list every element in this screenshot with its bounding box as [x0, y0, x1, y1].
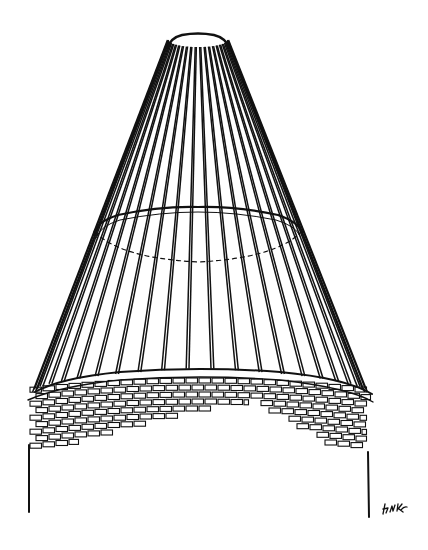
brick	[56, 441, 68, 446]
brick	[205, 385, 217, 390]
brick	[140, 386, 152, 391]
brick	[121, 394, 133, 399]
brick	[147, 393, 159, 398]
brick	[335, 392, 347, 397]
brick	[355, 401, 367, 406]
brick	[270, 387, 282, 392]
brick	[134, 421, 146, 426]
brick	[325, 440, 337, 445]
brick	[114, 387, 126, 392]
brick	[251, 379, 263, 384]
brick	[244, 386, 256, 391]
brick	[75, 404, 87, 409]
brick	[101, 430, 113, 435]
rib-line	[226, 43, 351, 384]
brick	[160, 392, 172, 397]
brick	[62, 419, 74, 424]
brick	[238, 379, 250, 384]
brick	[127, 387, 139, 392]
rib-line	[52, 43, 172, 384]
brick	[160, 406, 172, 411]
brick	[69, 425, 81, 430]
brick	[95, 423, 107, 428]
brick	[322, 391, 334, 396]
brick	[160, 378, 172, 383]
brick	[289, 416, 301, 421]
brick	[297, 424, 309, 429]
cone-framework-illustration	[0, 0, 428, 550]
brick	[295, 410, 307, 415]
brick	[199, 392, 211, 397]
brick	[323, 426, 335, 431]
brick	[352, 408, 364, 413]
brick	[153, 386, 165, 391]
brick	[127, 415, 139, 420]
brick	[274, 401, 286, 406]
brick	[192, 385, 204, 390]
brick	[153, 400, 165, 405]
brick	[49, 406, 61, 411]
brick	[75, 418, 87, 423]
brick	[134, 379, 146, 384]
cone-ribs	[33, 40, 368, 392]
brick	[108, 395, 120, 400]
brick	[326, 405, 338, 410]
brick	[166, 399, 178, 404]
brick	[321, 412, 333, 417]
brick	[302, 417, 314, 422]
brick	[88, 417, 100, 422]
brick	[153, 414, 165, 419]
brick	[88, 389, 100, 394]
brick	[173, 392, 185, 397]
brick	[251, 393, 263, 398]
brick	[147, 379, 159, 384]
brick	[238, 393, 250, 398]
brick	[349, 428, 361, 433]
rib-line	[224, 43, 348, 384]
brick	[166, 385, 178, 390]
brick	[62, 391, 74, 396]
rib-line	[64, 44, 174, 381]
brick	[121, 408, 133, 413]
brick	[62, 433, 74, 438]
brick	[82, 424, 94, 429]
brick	[75, 390, 87, 395]
brick	[287, 402, 299, 407]
brick	[212, 392, 224, 397]
brick	[212, 378, 224, 383]
brick	[127, 401, 139, 406]
right-wall	[368, 452, 369, 517]
brick	[244, 400, 249, 405]
rib-line	[222, 44, 336, 381]
brick	[277, 394, 289, 399]
brick	[173, 378, 185, 383]
brick	[30, 443, 42, 448]
brick	[354, 422, 366, 427]
brick	[36, 408, 48, 413]
brick	[225, 378, 237, 383]
brick	[49, 434, 61, 439]
brick	[69, 411, 81, 416]
brick	[192, 399, 204, 404]
brick	[342, 400, 354, 405]
brick	[186, 378, 198, 383]
brick	[264, 380, 276, 385]
brick	[264, 394, 276, 399]
brick	[362, 429, 367, 434]
brick	[269, 408, 281, 413]
brick	[121, 422, 133, 427]
brick	[114, 401, 126, 406]
brick	[342, 386, 354, 391]
brick	[36, 436, 48, 441]
brick	[43, 414, 55, 419]
brick	[101, 388, 113, 393]
brick	[283, 388, 295, 393]
brick	[69, 397, 81, 402]
brick	[88, 431, 100, 436]
brick	[199, 406, 211, 411]
brick	[341, 421, 353, 426]
brick	[179, 385, 191, 390]
brick	[56, 399, 68, 404]
brick	[82, 410, 94, 415]
brick	[140, 414, 152, 419]
